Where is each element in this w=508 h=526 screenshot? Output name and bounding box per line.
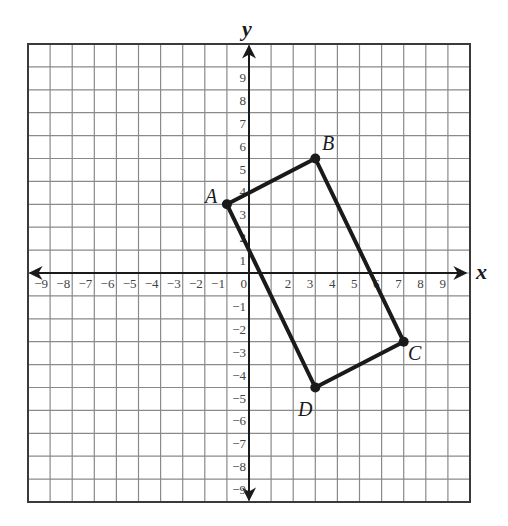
x-tick-label: −8 bbox=[56, 276, 70, 291]
x-tick-label: 3 bbox=[307, 276, 314, 291]
vertex-label-a: A bbox=[203, 185, 218, 207]
y-tick-label: −5 bbox=[232, 391, 246, 406]
vertex-label-c: C bbox=[408, 342, 422, 364]
x-tick-label: 4 bbox=[329, 276, 336, 291]
x-tick-label: 9 bbox=[439, 276, 446, 291]
x-tick-label: 5 bbox=[351, 276, 358, 291]
x-tick-label: −6 bbox=[101, 276, 115, 291]
y-tick-label: −1 bbox=[232, 299, 246, 314]
x-tick-label: 7 bbox=[395, 276, 402, 291]
y-tick-label: 5 bbox=[240, 162, 247, 177]
y-tick-label: 1 bbox=[240, 253, 247, 268]
y-tick-label: −4 bbox=[232, 368, 246, 383]
y-tick-label: −8 bbox=[232, 459, 246, 474]
y-tick-label: −2 bbox=[232, 322, 246, 337]
vertex-label-b: B bbox=[322, 132, 334, 154]
vertex-point-d bbox=[310, 383, 320, 393]
vertex-label-d: D bbox=[297, 398, 313, 420]
x-tick-label: 0 bbox=[241, 276, 248, 291]
vertex-point-a bbox=[222, 199, 232, 209]
coordinate-plane: −9−8−7−6−5−4−3−2−1023456789 987654321−1−… bbox=[0, 0, 508, 526]
y-tick-label: 6 bbox=[240, 139, 247, 154]
x-tick-labels: −9−8−7−6−5−4−3−2−1023456789 bbox=[34, 276, 446, 291]
y-tick-label: −9 bbox=[232, 482, 246, 497]
y-tick-label: 7 bbox=[240, 116, 247, 131]
x-axis-label: x bbox=[475, 259, 487, 284]
x-tick-label: −3 bbox=[167, 276, 181, 291]
x-tick-label: 2 bbox=[285, 276, 292, 291]
y-axis-label: y bbox=[239, 16, 252, 41]
y-tick-label: −3 bbox=[232, 345, 246, 360]
x-tick-label: −5 bbox=[123, 276, 137, 291]
y-tick-label: −7 bbox=[232, 436, 246, 451]
x-tick-label: −9 bbox=[34, 276, 48, 291]
x-tick-label: 8 bbox=[417, 276, 424, 291]
x-tick-label: −7 bbox=[78, 276, 92, 291]
vertex-point-b bbox=[310, 154, 320, 164]
y-tick-label: 9 bbox=[240, 70, 247, 85]
x-tick-label: −1 bbox=[211, 276, 225, 291]
y-tick-label: 3 bbox=[240, 207, 247, 222]
x-tick-label: −2 bbox=[189, 276, 203, 291]
y-tick-label: −6 bbox=[232, 413, 246, 428]
y-tick-label: 8 bbox=[240, 93, 247, 108]
x-tick-label: −4 bbox=[145, 276, 159, 291]
